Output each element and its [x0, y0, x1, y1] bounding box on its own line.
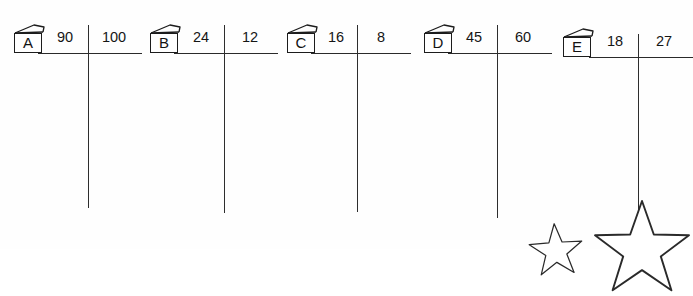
- horizontal-rule-e: [589, 57, 693, 58]
- vertical-divider-c: [357, 25, 358, 212]
- star-outline-large: [592, 198, 692, 296]
- book-icon: A: [14, 24, 44, 54]
- dividend-left-c: 16: [315, 30, 357, 44]
- group-label-a: A: [14, 33, 42, 53]
- group-label-c: C: [287, 33, 315, 53]
- book-icon: B: [150, 24, 180, 54]
- horizontal-rule-b: [174, 53, 278, 54]
- dividend-left-a: 90: [44, 30, 86, 44]
- dividend-left-d: 45: [453, 30, 495, 44]
- dividend-left-e: 18: [594, 34, 636, 48]
- group-label-e: E: [563, 37, 591, 57]
- book-icon: C: [287, 24, 317, 54]
- book-icon: E: [563, 28, 593, 58]
- horizontal-rule-d: [448, 53, 552, 54]
- dividend-right-e: 27: [640, 34, 688, 48]
- dividend-left-b: 24: [180, 30, 222, 44]
- group-label-d: D: [424, 33, 452, 53]
- vertical-divider-b: [224, 25, 225, 213]
- vertical-divider-d: [497, 25, 498, 218]
- group-label-b: B: [150, 33, 178, 53]
- vertical-divider-e: [638, 34, 639, 222]
- dividend-right-b: 12: [226, 30, 274, 44]
- dividend-right-d: 60: [499, 30, 547, 44]
- book-icon: D: [424, 24, 454, 54]
- star-outline-small: [526, 220, 586, 280]
- horizontal-rule-a: [38, 53, 142, 54]
- dividend-right-c: 8: [359, 30, 403, 44]
- dividend-right-a: 100: [90, 30, 138, 44]
- vertical-divider-a: [88, 25, 89, 208]
- horizontal-rule-c: [311, 53, 411, 54]
